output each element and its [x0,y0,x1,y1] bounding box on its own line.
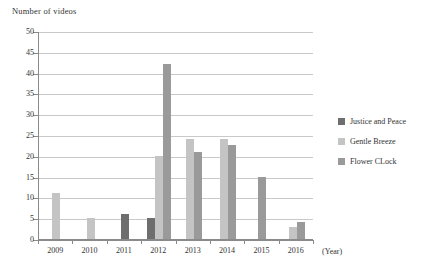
bar [147,218,155,239]
bar [186,139,194,239]
y-tick-label: 20 [0,153,34,161]
y-tick-label: 0 [0,236,34,244]
x-tick-mark [141,240,142,244]
gridline [39,178,313,179]
bar [52,193,60,239]
gridline [39,219,313,220]
x-tick-mark [210,240,211,244]
gridline [39,115,313,116]
y-tick-label: 15 [0,174,34,182]
y-tick-label: 10 [0,194,34,202]
bar [258,177,266,239]
legend-item[interactable]: Justice and Peace [338,117,406,126]
gridline [39,94,313,95]
gridline [39,74,313,75]
bar-chart: Number of videos 50454035302520151050 20… [0,0,436,277]
x-tick-mark [72,240,73,244]
x-tick-label: 2016 [274,246,318,255]
y-tick-label: 25 [0,132,34,140]
y-tick-label: 50 [0,28,34,36]
bar [289,227,297,239]
y-tick-label: 40 [0,70,34,78]
gridline [39,53,313,54]
y-tick-label: 45 [0,49,34,57]
legend-swatch-icon [338,138,345,145]
gridline [39,157,313,158]
legend-label: Gentle Breeze [350,137,396,146]
bar [121,214,129,239]
legend-swatch-icon [338,158,345,165]
chart-y-axis-title: Number of videos [12,6,77,16]
plot-area [38,32,313,240]
y-tick-label: 35 [0,90,34,98]
legend-swatch-icon [338,118,345,125]
x-axis-caption: (Year) [322,247,342,256]
y-tick-label: 30 [0,111,34,119]
y-tick-label: 5 [0,215,34,223]
bar [297,222,305,239]
x-tick-mark [279,240,280,244]
legend-item[interactable]: Gentle Breeze [338,137,406,146]
bar [163,64,171,239]
legend-label: Flower CLock [350,157,396,166]
bar [87,218,95,239]
bar [228,145,236,239]
gridline [39,198,313,199]
legend-item[interactable]: Flower CLock [338,157,406,166]
bar [194,152,202,239]
legend-label: Justice and Peace [350,117,406,126]
bar [220,139,228,239]
x-tick-mark [107,240,108,244]
gridline [39,32,313,33]
x-tick-mark [38,240,39,244]
gridline [39,136,313,137]
x-tick-mark [313,240,314,244]
chart-legend: Justice and PeaceGentle BreezeFlower CLo… [338,117,406,177]
bar [155,156,163,239]
x-tick-mark [176,240,177,244]
x-tick-mark [244,240,245,244]
